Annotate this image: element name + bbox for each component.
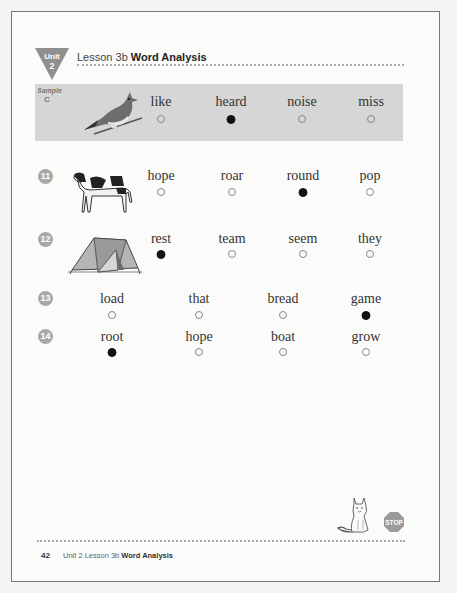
sample-label: Sample C (37, 87, 57, 104)
question-13-option-bubble-selected[interactable] (362, 311, 371, 320)
unit-badge: Unit 2 (35, 48, 69, 80)
sample-option-bubble[interactable] (157, 115, 165, 123)
footer-text: Unit 2 Lesson 3bWord Analysis (63, 551, 173, 560)
question-11-option-bubble[interactable] (228, 188, 236, 196)
question-14-option-bubble[interactable] (195, 348, 203, 356)
question-14-option-word: hope (185, 330, 212, 344)
question-12-option-word: seem (289, 232, 318, 246)
question-11-option-word: roar (221, 169, 244, 183)
question-number: 13 (38, 291, 53, 306)
sample-option-word: miss (358, 95, 384, 109)
footer-title: Word Analysis (121, 551, 173, 560)
footer-lesson: Unit 2 Lesson 3b (63, 551, 119, 560)
question-13-option-word: that (189, 292, 210, 306)
sample-option-word: noise (287, 95, 317, 109)
header-divider (77, 64, 404, 66)
question-12-option-word: team (218, 232, 245, 246)
question-14-option-bubble-selected[interactable] (108, 348, 117, 357)
question-12-option-word: they (358, 232, 382, 246)
sample-option-bubble-selected[interactable] (227, 115, 236, 124)
sample-option-word: heard (215, 95, 246, 109)
sample-option-word: like (151, 95, 172, 109)
question-11-option-bubble-selected[interactable] (299, 188, 308, 197)
bird-icon (80, 88, 144, 140)
question-12-option-bubble[interactable] (299, 250, 307, 258)
question-14-option-bubble[interactable] (279, 348, 287, 356)
lesson-header: Lesson 3bWord Analysis (77, 51, 207, 63)
question-11-option-word: pop (360, 169, 381, 183)
question-13-option-word: game (351, 292, 381, 306)
question-11-option-bubble[interactable] (366, 188, 374, 196)
question-13-option-word: bread (267, 292, 298, 306)
svg-text:STOP: STOP (385, 519, 403, 526)
question-13-option-bubble[interactable] (108, 311, 116, 319)
svg-text:Unit: Unit (44, 52, 60, 61)
question-number: 12 (38, 232, 53, 247)
question-14-option-bubble[interactable] (362, 348, 370, 356)
question-11-option-bubble[interactable] (157, 188, 165, 196)
lesson-label: Lesson 3b (77, 51, 128, 63)
sample-option-bubble[interactable] (298, 115, 306, 123)
question-13-option-bubble[interactable] (195, 311, 203, 319)
question-12-option-bubble[interactable] (228, 250, 236, 258)
lesson-title: Word Analysis (131, 51, 207, 63)
question-14-option-word: root (101, 330, 124, 344)
question-12-option-bubble[interactable] (366, 250, 374, 258)
question-13-option-word: load (100, 292, 124, 306)
footer-divider (37, 540, 405, 542)
page-number: 42 (41, 551, 50, 560)
question-14-option-word: boat (271, 330, 295, 344)
question-13-option-bubble[interactable] (279, 311, 287, 319)
question-number: 11 (38, 169, 53, 184)
question-12-option-bubble-selected[interactable] (157, 250, 166, 259)
cow-icon (72, 168, 136, 218)
cat-icon (336, 496, 376, 538)
sample-option-bubble[interactable] (367, 115, 375, 123)
question-11-option-word: round (287, 169, 320, 183)
stop-sign-icon: STOP (384, 512, 404, 532)
question-number: 14 (38, 329, 53, 344)
question-12-option-word: rest (151, 232, 171, 246)
question-14-option-word: grow (352, 330, 381, 344)
question-11-option-word: hope (147, 169, 174, 183)
tent-icon (68, 232, 142, 280)
svg-text:2: 2 (49, 61, 54, 71)
